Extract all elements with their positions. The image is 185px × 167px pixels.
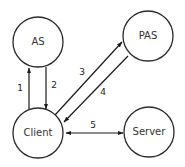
edge-label-5: 5	[90, 120, 96, 130]
node-as: AS	[13, 17, 63, 67]
edge-label-1: 1	[17, 83, 23, 93]
edge-1-client-to-as: 1	[17, 68, 29, 109]
node-label-pas: PAS	[139, 30, 158, 41]
edge-label-3: 3	[79, 67, 85, 77]
edge-label-2: 2	[51, 80, 57, 90]
node-server: Server	[124, 107, 174, 157]
arrow-diagonal-down-icon	[64, 56, 128, 122]
edge-3-client-to-pas: 3	[55, 42, 122, 115]
edge-5-client-server: 5	[66, 120, 123, 134]
node-label-client: Client	[24, 127, 53, 138]
arrow-diagonal-up-icon	[55, 42, 122, 115]
node-label-as: AS	[31, 36, 44, 47]
node-pas: PAS	[123, 11, 173, 61]
edge-4-pas-to-client: 4	[64, 56, 128, 122]
protocol-flow-diagram: 1 2 3 4 5 AS PAS Client Server	[0, 0, 185, 167]
node-label-server: Server	[133, 126, 167, 137]
edge-label-4: 4	[100, 87, 106, 97]
edge-2-as-to-client: 2	[46, 67, 57, 109]
node-client: Client	[13, 108, 63, 158]
